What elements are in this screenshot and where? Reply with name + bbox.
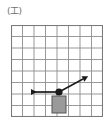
block xyxy=(52,96,66,113)
figure-container: (工) xyxy=(0,0,110,124)
figure-label: (工) xyxy=(7,6,22,17)
grid-diagram xyxy=(11,25,103,117)
point-mass-dot xyxy=(55,88,62,95)
